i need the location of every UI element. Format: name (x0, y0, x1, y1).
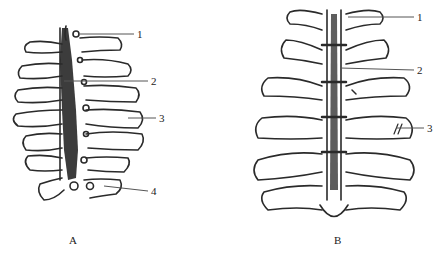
callout-b-1: 1 (417, 12, 423, 23)
callout-b-3: 3 (427, 123, 433, 134)
callout-a-2: 2 (151, 76, 157, 87)
leader-lines (64, 17, 424, 191)
callout-b-2: 2 (417, 65, 423, 76)
panel-b-illustration (254, 10, 414, 217)
callout-a-1: 1 (137, 29, 143, 40)
leader-b-2 (340, 68, 414, 70)
diagram-artwork (0, 0, 444, 257)
panel-b-caption: B (334, 235, 341, 246)
vertebra-rib-diagram: 1 2 3 4 A 1 2 3 B (0, 0, 444, 257)
panel-a-illustration (13, 26, 143, 200)
callout-a-3: 3 (159, 113, 165, 124)
panel-a-caption: A (69, 235, 77, 246)
leader-a-4 (104, 186, 148, 191)
callout-a-4: 4 (151, 186, 157, 197)
